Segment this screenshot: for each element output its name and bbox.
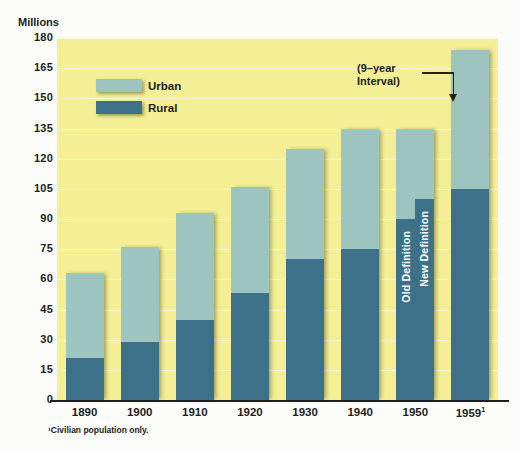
legend-swatch-urban	[96, 79, 142, 92]
y-axis-tick-label: 180	[1, 31, 53, 43]
x-axis-tick-label-1940: 1940	[333, 406, 388, 418]
x-axis-tick-label-1950: 1950	[388, 406, 443, 418]
interval-annotation: (9–year Interval)	[357, 62, 400, 88]
legend-swatch-rural	[96, 101, 142, 114]
bar-segment-rural	[341, 249, 379, 400]
y-axis-tick-label: 105	[1, 182, 53, 194]
bar-label-new-definition: New Definition	[418, 211, 430, 287]
bar-1940[interactable]	[341, 129, 379, 401]
bar-segment-rural	[451, 189, 489, 400]
footnote: ¹Civilian population only.	[48, 425, 148, 435]
x-axis-tick-label-1920: 1920	[222, 406, 277, 418]
y-axis-tick-label: 90	[1, 212, 53, 224]
gridline	[57, 38, 498, 39]
interval-annotation-line1: (9–year	[357, 62, 400, 75]
x-axis-tick-label-1910: 1910	[167, 406, 222, 418]
bar-label-old-definition: Old Definition	[400, 231, 412, 303]
x-axis-tick-label-1959: 19591	[443, 406, 498, 419]
bar-1910[interactable]	[176, 213, 214, 400]
bar-segment-rural	[176, 320, 214, 400]
bar-1959[interactable]	[451, 50, 489, 400]
y-axis-tick-label: 135	[1, 122, 53, 134]
y-axis-tick-label: 15	[1, 363, 53, 375]
x-axis-tick-label-1890: 1890	[57, 406, 112, 418]
gridline	[57, 68, 498, 69]
y-axis-tick-label: 165	[1, 61, 53, 73]
bar-1920[interactable]	[231, 187, 269, 400]
annotation-arrowhead-icon	[449, 94, 457, 102]
bar-1930[interactable]	[286, 149, 324, 400]
bar-1890[interactable]	[66, 273, 104, 400]
chart-canvas: Millions 0153045607590105120135150165180…	[0, 0, 519, 451]
legend-item-urban: Urban	[96, 79, 181, 92]
x-axis-line	[50, 400, 509, 402]
y-axis-tick-label: 150	[1, 91, 53, 103]
y-axis-tick-label: 30	[1, 333, 53, 345]
y-axis-tick-label: 120	[1, 152, 53, 164]
y-axis: 0153045607590105120135150165180	[0, 0, 53, 451]
interval-annotation-line2: Interval)	[357, 75, 400, 88]
y-axis-tick-label: 45	[1, 303, 53, 315]
y-axis-tick-label: 0	[1, 393, 53, 405]
bar-segment-rural	[286, 259, 324, 400]
legend-item-rural: Rural	[96, 101, 181, 114]
bar-segment-rural	[231, 293, 269, 400]
legend-label-urban: Urban	[148, 80, 181, 92]
y-axis-tick-label: 60	[1, 272, 53, 284]
x-axis-tick-label-1930: 1930	[278, 406, 333, 418]
x-axis-tick-label-1900: 1900	[112, 406, 167, 418]
bar-segment-rural	[66, 358, 104, 400]
legend: Urban Rural	[96, 79, 181, 123]
bar-1900[interactable]	[121, 247, 159, 400]
legend-label-rural: Rural	[148, 102, 177, 114]
bar-segment-rural	[121, 342, 159, 400]
y-axis-tick-label: 75	[1, 242, 53, 254]
annotation-leader-horizontal	[422, 72, 454, 74]
